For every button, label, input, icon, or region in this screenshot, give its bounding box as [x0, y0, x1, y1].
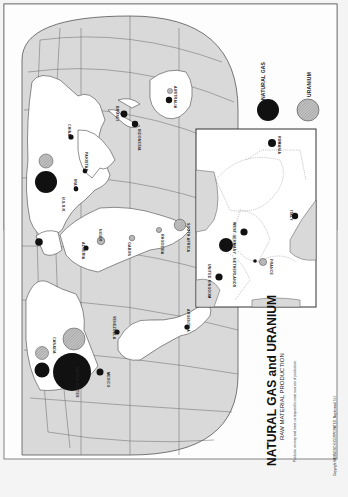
map-note: Products on map and inset correspond to … [293, 360, 297, 462]
australia [150, 70, 192, 119]
map-page: UNITED STATES CANADA MEXICO VENEZUELA AR… [0, 0, 348, 497]
map-title: NATURAL GAS and URANIUM [265, 295, 279, 466]
ussr-gas-marker [35, 171, 57, 193]
label-canada: CANADA [52, 337, 56, 354]
brunei-gas-marker [121, 111, 128, 118]
ussr-uranium-marker [39, 154, 53, 168]
label-china: CHINA [67, 124, 71, 137]
united-kingdom-gas-marker [215, 273, 222, 280]
rhodesia-uranium-marker [156, 227, 161, 232]
copyright: Copyright HAMMOND INCORPORATED, Maplewoo… [333, 395, 337, 476]
label-australia: AUSTRALIA [173, 86, 177, 109]
west-germany-gas-marker [240, 228, 247, 235]
australia-uranium-marker [167, 88, 172, 93]
australia-gas-marker [166, 97, 172, 103]
label-venezuela: VENEZUELA [112, 316, 116, 340]
label-argentina: ARGENTINA [186, 309, 190, 332]
usa-gas-marker [53, 353, 91, 391]
label-iran: IRAN [73, 179, 77, 189]
inset-label-italy: ITALY [289, 210, 293, 221]
label-usa: UNITED STATES [75, 367, 79, 398]
map-subtitle: RAW MATERIAL PRODUCTION [279, 353, 285, 440]
inset-label-west-germany: WEST GERMANY [232, 222, 236, 255]
rumania-gas-marker [268, 139, 276, 147]
label-pakistan: PAKISTAN [84, 152, 88, 172]
europe-gas-marker [35, 238, 43, 246]
label-mexico: MEXICO [106, 372, 110, 387]
label-indonesia: INDONESIA [137, 129, 141, 151]
label-algeria: ALGERIA [81, 242, 85, 260]
south-africa-uranium-marker [174, 219, 186, 231]
legend-uranium: URANIUM [306, 72, 312, 97]
label-niger: NIGER [98, 229, 102, 242]
canada-uranium-marker [36, 347, 49, 360]
inset-label-united-kingdom: UNITED KINGDOM [207, 264, 211, 299]
mexico-gas-marker [97, 369, 104, 376]
natural-gas-legend-icon [257, 99, 279, 121]
indonesia-gas-marker [132, 121, 138, 127]
usa-uranium-marker [63, 328, 85, 350]
label-rhodesia: RHODESIA [160, 234, 164, 255]
label-south-africa: SOUTH AFRICA [186, 223, 190, 253]
label-ussr: U.S.S.R. [61, 197, 65, 213]
uranium-legend-icon [297, 99, 319, 121]
canada-gas-marker [35, 363, 50, 378]
europe-inset: RUMANIA WEST GERMANY ITALY NETHERLANDS U… [196, 129, 316, 307]
label-brunei: BRUNEI [115, 106, 119, 121]
inset-label-rumania: RUMANIA [277, 136, 281, 155]
france-gas-marker [253, 259, 257, 263]
inset-label-france: FRANCE [269, 259, 273, 276]
gabon-uranium-marker [129, 235, 135, 241]
inset-label-netherlands: NETHERLANDS [232, 258, 236, 288]
france-uranium-marker [259, 258, 266, 265]
netherlands-gas-marker [219, 238, 233, 252]
label-gabon: GABON [127, 242, 131, 257]
legend-natural-gas: NATURAL GAS [260, 61, 266, 100]
